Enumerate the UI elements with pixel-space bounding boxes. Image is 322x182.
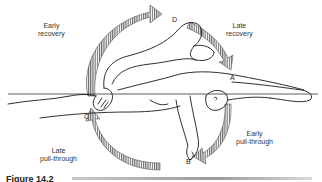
label-late-pull-through: Late pull-through (40, 147, 77, 163)
label-line: Late (226, 22, 253, 30)
label-early-recovery: Early recovery (38, 22, 65, 38)
label-late-recovery: Late recovery (226, 22, 253, 38)
label-line: Late (40, 147, 77, 155)
label-line: Early (38, 22, 65, 30)
point-b: B (186, 158, 191, 166)
point-d: D (172, 16, 177, 24)
label-line: recovery (38, 30, 65, 38)
label-early-pull-through: Early pull-through (236, 130, 273, 146)
point-c: C (84, 113, 89, 121)
early-recovery-arrow-icon (87, 5, 162, 96)
label-line: pull-through (236, 138, 273, 146)
point-a: A (230, 74, 235, 82)
label-line: recovery (226, 30, 253, 38)
caption-rule (72, 177, 312, 180)
label-line: Early (236, 130, 273, 138)
late-pull-through-arrow-icon (86, 108, 160, 170)
figure-caption: Figure 14.2 (6, 174, 54, 182)
early-pull-through-arrow-icon (194, 104, 231, 164)
label-line: pull-through (40, 155, 77, 163)
